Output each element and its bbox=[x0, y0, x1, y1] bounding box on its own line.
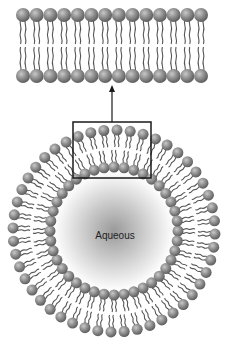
lipid-head bbox=[48, 245, 59, 256]
lipid-tail bbox=[80, 47, 81, 72]
lipid-tail bbox=[176, 47, 177, 72]
lipid-tail bbox=[198, 223, 212, 225]
lipid-head bbox=[119, 289, 130, 300]
lipid-tail bbox=[189, 19, 190, 44]
lipid-head bbox=[194, 69, 208, 83]
lipid-tail bbox=[194, 257, 207, 261]
lipid-tail bbox=[148, 19, 149, 44]
lipid-tail bbox=[102, 47, 103, 72]
lipid-tail bbox=[50, 182, 61, 190]
lipid-tail bbox=[75, 19, 76, 44]
lipid-tail bbox=[34, 239, 48, 242]
lipid-tail bbox=[87, 155, 91, 168]
lipid-tail bbox=[126, 297, 129, 311]
lipid-head bbox=[8, 236, 19, 247]
lipid-tail bbox=[180, 216, 194, 219]
lipid-tail bbox=[171, 19, 172, 44]
lipid-head bbox=[205, 255, 216, 266]
lipid-tail bbox=[143, 47, 144, 72]
lipid-tail bbox=[33, 229, 47, 230]
lipid-head bbox=[209, 215, 220, 226]
lipid-head bbox=[43, 8, 57, 22]
lipid-tail bbox=[178, 286, 189, 295]
lipid-head bbox=[92, 325, 103, 336]
lipid-tail bbox=[47, 47, 48, 72]
lipid-tail bbox=[186, 274, 198, 281]
lipid-tail bbox=[16, 226, 30, 227]
lipid-tail bbox=[17, 217, 31, 219]
lipid-tail bbox=[65, 284, 73, 295]
lipid-tail bbox=[68, 287, 76, 298]
lipid-tail bbox=[32, 178, 44, 185]
lipid-tail bbox=[163, 175, 173, 185]
lipid-tail bbox=[152, 164, 160, 175]
lipid-tail bbox=[20, 205, 33, 209]
lipid-head bbox=[153, 8, 167, 22]
lipid-tail bbox=[90, 136, 93, 149]
lipid-tail bbox=[181, 240, 195, 242]
lipid-tail bbox=[34, 19, 35, 44]
lipid-head bbox=[119, 326, 130, 337]
lipid-head bbox=[125, 126, 136, 137]
lipid-tail bbox=[34, 47, 35, 72]
lipid-tail bbox=[47, 19, 48, 44]
lipid-tail bbox=[55, 277, 65, 287]
lipid-head bbox=[73, 131, 84, 142]
lipid-tail bbox=[160, 149, 167, 161]
lipid-tail bbox=[115, 150, 116, 164]
lipid-tail bbox=[137, 294, 141, 307]
lipid-tail bbox=[181, 229, 195, 230]
lipid-tail bbox=[115, 298, 116, 312]
lipid-tail bbox=[87, 294, 91, 307]
lipid-tail bbox=[174, 163, 184, 172]
lipid-tail bbox=[184, 277, 196, 284]
lipid-head bbox=[168, 307, 179, 318]
lipid-head bbox=[105, 326, 116, 337]
lipid-tail bbox=[130, 19, 131, 44]
lipid-tail bbox=[20, 19, 21, 44]
lipid-tail bbox=[84, 311, 88, 324]
lipid-tail bbox=[189, 47, 190, 72]
lipid-head bbox=[207, 202, 218, 213]
lipid-head bbox=[43, 69, 57, 83]
lipid-tail bbox=[58, 172, 68, 182]
lipid-tail bbox=[99, 297, 101, 311]
lipid-head bbox=[57, 8, 71, 22]
lipid-tail bbox=[195, 253, 208, 257]
lipid-head bbox=[153, 69, 167, 83]
lipid-head bbox=[39, 152, 50, 163]
lipid-tail bbox=[171, 47, 172, 72]
lipid-head bbox=[178, 299, 189, 310]
lipid-head bbox=[172, 215, 183, 226]
lipid-head bbox=[169, 206, 180, 217]
lipid-head bbox=[112, 125, 123, 136]
lipid-tail bbox=[118, 133, 119, 147]
lipid-tail bbox=[160, 172, 170, 182]
lipid-tail bbox=[34, 243, 48, 246]
lipid-tail bbox=[103, 298, 105, 312]
lipid-tail bbox=[17, 241, 31, 243]
lipid-tail bbox=[169, 157, 178, 168]
lipid-head bbox=[79, 322, 90, 333]
lipid-head bbox=[167, 8, 181, 22]
lipid-tail bbox=[112, 298, 113, 312]
lipid-tail bbox=[33, 232, 47, 233]
lipid-tail bbox=[47, 185, 58, 193]
lipid-head bbox=[112, 8, 126, 22]
lipid-head bbox=[109, 290, 120, 301]
lipid-tail bbox=[173, 291, 182, 301]
lipid-head bbox=[180, 69, 194, 83]
lipid-tail bbox=[91, 296, 95, 309]
lipid-head bbox=[98, 289, 109, 300]
lipid-tail bbox=[44, 290, 54, 299]
lipid-tail bbox=[16, 230, 30, 231]
lipid-tail bbox=[129, 135, 131, 149]
lipid-tail bbox=[121, 47, 122, 72]
lipid-tail bbox=[203, 19, 204, 44]
lipid-tail bbox=[17, 237, 31, 239]
lipid-tail bbox=[179, 208, 192, 212]
lipid-tail bbox=[38, 204, 51, 208]
liposome-diagram bbox=[0, 0, 228, 352]
lipid-head bbox=[12, 196, 23, 207]
lipid-head bbox=[128, 286, 139, 297]
